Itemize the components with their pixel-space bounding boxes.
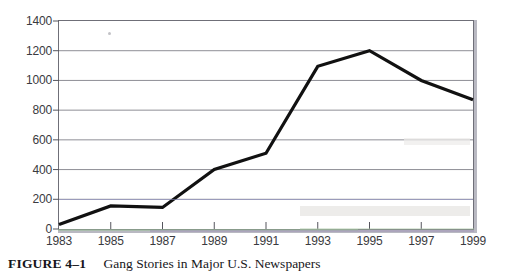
y-tick-label-1400: 1400 bbox=[26, 15, 52, 27]
x-tick-label-1985: 1985 bbox=[98, 235, 124, 247]
x-tick-label-1989: 1989 bbox=[201, 235, 227, 247]
y-tick-label-400: 400 bbox=[33, 164, 52, 176]
data-line-series bbox=[59, 21, 473, 229]
x-tick-label-1995: 1995 bbox=[357, 235, 383, 247]
x-tick-label-1997: 1997 bbox=[408, 235, 434, 247]
y-tick-label-800: 800 bbox=[33, 104, 52, 116]
plot-area bbox=[58, 20, 474, 230]
scan-color-fringe-purple bbox=[150, 230, 474, 232]
y-tick-label-1000: 1000 bbox=[26, 74, 52, 86]
y-tick-label-600: 600 bbox=[33, 134, 52, 146]
y-tick-label-1200: 1200 bbox=[26, 45, 52, 57]
chart-figure: 0200400600800100012001400 19831985198719… bbox=[0, 0, 507, 277]
y-tick-label-200: 200 bbox=[33, 193, 52, 205]
x-tick-label-1993: 1993 bbox=[305, 235, 331, 247]
x-axis-tick-labels: 198319851987198919911993199519971999 bbox=[0, 235, 507, 251]
figure-screenshot: 0200400600800100012001400 19831985198719… bbox=[0, 0, 507, 277]
x-tick-label-1991: 1991 bbox=[253, 235, 279, 247]
figure-caption: FIGURE 4–1 Gang Stories in Major U.S. Ne… bbox=[8, 256, 503, 272]
figure-caption-title: Gang Stories in Major U.S. Newspapers bbox=[104, 256, 321, 271]
x-tick-label-1999: 1999 bbox=[460, 235, 486, 247]
data-line bbox=[59, 51, 473, 225]
x-tick-label-1987: 1987 bbox=[150, 235, 176, 247]
x-tick-label-1983: 1983 bbox=[46, 235, 72, 247]
figure-caption-number: FIGURE 4–1 bbox=[8, 256, 86, 271]
